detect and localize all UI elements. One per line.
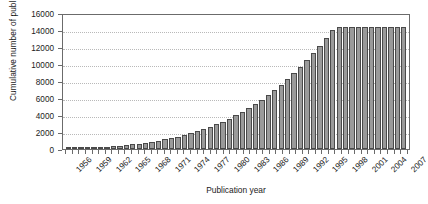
bar — [324, 38, 329, 149]
bar — [156, 141, 161, 149]
bar — [304, 60, 309, 149]
x-tick-mark — [144, 150, 145, 154]
bar — [188, 133, 193, 149]
x-tick-label: 1980 — [232, 155, 251, 174]
x-tick-mark — [98, 150, 99, 154]
bar — [395, 27, 400, 149]
bar — [369, 27, 374, 149]
bar — [311, 53, 316, 149]
x-tick-mark — [190, 150, 191, 154]
x-tick-mark — [229, 150, 230, 154]
bar — [66, 147, 71, 149]
plot-area — [62, 14, 410, 150]
y-tick-label: 16000 — [31, 10, 54, 19]
bar — [85, 147, 90, 149]
bar — [266, 95, 271, 149]
x-tick-mark — [334, 150, 335, 154]
bar — [104, 147, 109, 149]
bar — [78, 147, 83, 149]
x-tick-mark — [341, 150, 342, 154]
x-tick-mark — [105, 150, 106, 154]
x-tick-label: 1962 — [114, 155, 133, 174]
x-tick-label: 1956 — [75, 155, 94, 174]
y-tick-label: 10000 — [31, 61, 54, 70]
x-tick-mark — [216, 150, 217, 154]
x-tick-mark — [111, 150, 112, 154]
x-tick-mark — [85, 150, 86, 154]
x-tick-mark — [295, 150, 296, 154]
y-tick-label: 8000 — [36, 78, 54, 87]
y-tick-label: 14000 — [31, 27, 54, 36]
bar — [208, 127, 213, 149]
y-tick-label: 4000 — [36, 112, 54, 121]
bar — [111, 146, 116, 149]
bar — [195, 131, 200, 149]
x-tick-mark — [138, 150, 139, 154]
x-tick-mark — [124, 150, 125, 154]
bar — [143, 143, 148, 149]
x-tick-mark — [170, 150, 171, 154]
bar — [137, 144, 142, 149]
bar — [388, 27, 393, 149]
x-tick-mark — [177, 150, 178, 154]
bar — [246, 108, 251, 149]
bar — [298, 67, 303, 149]
bar — [362, 27, 367, 149]
x-tick-label: 1992 — [311, 155, 330, 174]
bar — [279, 85, 284, 149]
x-tick-mark — [302, 150, 303, 154]
x-tick-mark — [354, 150, 355, 154]
bar — [356, 27, 361, 149]
x-tick-label: 1968 — [153, 155, 172, 174]
bar — [291, 73, 296, 149]
y-tick-label: 6000 — [36, 95, 54, 104]
x-tick-mark — [72, 150, 73, 154]
bar — [259, 100, 264, 149]
x-tick-label: 2007 — [409, 155, 428, 174]
y-tick-label: 2000 — [36, 129, 54, 138]
x-tick-mark — [256, 150, 257, 154]
bar — [349, 27, 354, 149]
bar — [382, 27, 387, 149]
x-tick-label: 1998 — [350, 155, 369, 174]
x-tick-mark — [387, 150, 388, 154]
x-tick-mark — [197, 150, 198, 154]
x-tick-mark — [262, 150, 263, 154]
x-tick-mark — [321, 150, 322, 154]
bar — [130, 144, 135, 149]
bar — [375, 27, 380, 149]
x-tick-mark — [282, 150, 283, 154]
x-axis-tick-labels: 1956195919621965196819711974197719801983… — [62, 155, 410, 185]
bar — [149, 142, 154, 149]
bar — [162, 139, 167, 149]
x-tick-mark — [210, 150, 211, 154]
x-tick-label: 2001 — [370, 155, 389, 174]
x-tick-mark — [236, 150, 237, 154]
x-tick-mark — [151, 150, 152, 154]
x-tick-mark — [249, 150, 250, 154]
bar — [401, 27, 406, 149]
chart-figure: Cumulative number of publications 020004… — [0, 0, 428, 204]
bar — [343, 27, 348, 149]
bar — [117, 146, 122, 149]
x-tick-label: 1983 — [252, 155, 271, 174]
x-axis-title: Publication year — [62, 185, 410, 195]
y-tick-label: 0 — [49, 146, 54, 155]
x-tick-label: 1965 — [134, 155, 153, 174]
x-tick-mark — [367, 150, 368, 154]
x-tick-mark — [118, 150, 119, 154]
x-tick-mark — [394, 150, 395, 154]
bar — [285, 79, 290, 149]
x-tick-mark — [275, 150, 276, 154]
bar — [220, 122, 225, 149]
x-tick-mark — [328, 150, 329, 154]
bar — [214, 124, 219, 149]
bar — [124, 145, 129, 149]
x-tick-mark — [92, 150, 93, 154]
x-tick-mark — [157, 150, 158, 154]
x-tick-mark — [315, 150, 316, 154]
x-tick-mark — [269, 150, 270, 154]
x-tick-mark — [164, 150, 165, 154]
bar — [317, 46, 322, 149]
x-tick-label: 1995 — [331, 155, 350, 174]
